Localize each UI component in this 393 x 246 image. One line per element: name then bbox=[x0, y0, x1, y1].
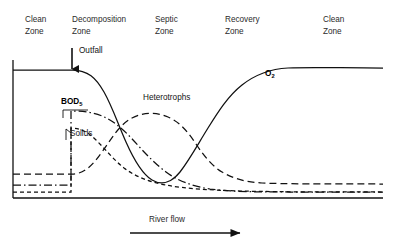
zone-clean-downstream-line2: Zone bbox=[323, 27, 342, 36]
solids-annotation: Solids bbox=[66, 129, 92, 140]
curve-bod5 bbox=[13, 111, 383, 192]
zone-recovery-line2: Zone bbox=[225, 27, 244, 36]
outfall-marker: Outfall bbox=[72, 46, 103, 69]
heterotrophs-label: Heterotrophs bbox=[143, 93, 190, 102]
zone-recovery-line1: Recovery bbox=[225, 15, 260, 24]
axes bbox=[13, 60, 383, 198]
bod5-label-base: BOD bbox=[61, 97, 79, 106]
curve-group bbox=[13, 68, 383, 192]
zone-clean-downstream: Clean Zone bbox=[323, 15, 345, 36]
curve-heterotrophs bbox=[13, 113, 383, 184]
bod5-label: BOD5 bbox=[61, 97, 83, 107]
curve-solids bbox=[13, 128, 383, 192]
zone-decomposition-line1: Decomposition bbox=[72, 15, 127, 24]
zone-septic-line2: Zone bbox=[155, 27, 174, 36]
zone-decomposition-line2: Zone bbox=[72, 27, 91, 36]
zone-label-group: Clean Zone Decomposition Zone Septic Zon… bbox=[25, 15, 345, 36]
zone-recovery: Recovery Zone bbox=[225, 15, 260, 36]
o2-label-subscript: 2 bbox=[271, 73, 274, 79]
river-flow-label: River flow bbox=[149, 215, 185, 224]
river-oxygen-sag-diagram: Clean Zone Decomposition Zone Septic Zon… bbox=[0, 0, 393, 246]
bod5-label-subscript: 5 bbox=[79, 101, 83, 107]
river-flow-indicator: River flow bbox=[130, 215, 240, 233]
bod5-annotation: BOD5 bbox=[61, 97, 88, 118]
zone-decomposition: Decomposition Zone bbox=[72, 15, 127, 36]
heterotrophs-annotation: Heterotrophs bbox=[143, 93, 190, 102]
solids-label: Solids bbox=[70, 129, 92, 138]
outfall-label: Outfall bbox=[79, 46, 103, 55]
zone-septic-line1: Septic bbox=[155, 15, 178, 24]
zone-septic: Septic Zone bbox=[155, 15, 178, 36]
zone-clean-upstream-line1: Clean bbox=[25, 15, 47, 24]
zone-clean-upstream-line2: Zone bbox=[25, 27, 44, 36]
zone-clean-upstream: Clean Zone bbox=[25, 15, 47, 36]
curve-label-group: BOD5 Solids Heterotrophs O2 bbox=[61, 69, 275, 140]
curve-o2 bbox=[13, 68, 383, 183]
zone-clean-downstream-line1: Clean bbox=[323, 15, 345, 24]
